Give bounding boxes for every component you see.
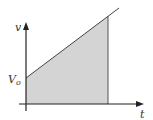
- intercept-subscript: o: [16, 78, 21, 87]
- y-axis-arrow-icon: [23, 22, 29, 30]
- x-axis-label: t: [140, 108, 145, 120]
- x-axis-arrow-icon: [136, 101, 144, 107]
- velocity-time-diagram: v t Vo: [0, 0, 153, 120]
- shaded-area: [26, 16, 108, 104]
- y-axis-label: v: [15, 21, 22, 34]
- intercept-label: Vo: [8, 73, 21, 87]
